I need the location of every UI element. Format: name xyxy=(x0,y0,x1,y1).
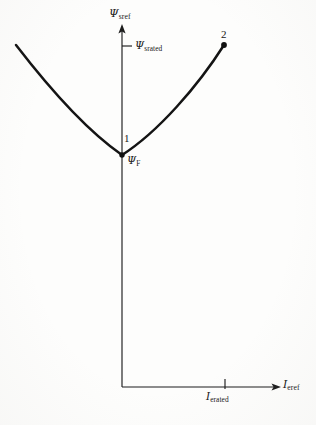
characteristic-curve xyxy=(16,45,224,155)
y-axis-label: Ψsref xyxy=(109,8,131,19)
marker-point-1 xyxy=(119,152,124,157)
i-erated-subscript: erated xyxy=(210,395,229,404)
psi-f-subscript: F xyxy=(136,159,140,168)
point-1-label: 1 xyxy=(124,133,130,144)
y-tick-label-psi-srated: Ψsrated xyxy=(135,40,162,52)
plot-canvas xyxy=(0,0,316,425)
point-2-label: 2 xyxy=(221,29,227,40)
y-axis-symbol: Ψ xyxy=(109,7,119,20)
psi-srated-subscript: srated xyxy=(144,44,162,53)
marker-point-2 xyxy=(221,42,227,48)
y-axis-subscript: sref xyxy=(119,12,131,21)
psi-srated-symbol: Ψ xyxy=(135,39,144,51)
minimum-value-label: ΨF xyxy=(127,155,140,167)
psi-f-symbol: Ψ xyxy=(127,154,136,166)
figure-container: Ψsref Ieref Ψsrated Ierated ΨF 1 2 xyxy=(0,0,316,425)
x-tick-label-i-erated: Ierated xyxy=(206,391,229,403)
x-axis-label: Ieref xyxy=(283,379,300,390)
x-axis-subscript: eref xyxy=(287,383,299,392)
